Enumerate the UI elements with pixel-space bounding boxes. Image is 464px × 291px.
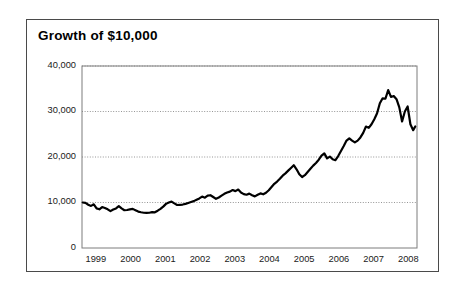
y-axis-tick-label: 10,000 <box>48 196 76 206</box>
y-axis-tick-label: 20,000 <box>48 151 76 161</box>
data-series-line <box>83 90 416 213</box>
gridlines-group <box>82 66 417 203</box>
line-chart-plot <box>0 0 464 291</box>
y-axis-tick-label: 40,000 <box>48 60 76 70</box>
y-axis-tick-label: 30,000 <box>48 105 76 115</box>
x-axis-tick-label: 2008 <box>388 254 428 264</box>
chart-figure: Growth of $10,000 010,00020,00030,00040,… <box>0 0 464 291</box>
y-axis-tick-label: 0 <box>71 242 76 252</box>
